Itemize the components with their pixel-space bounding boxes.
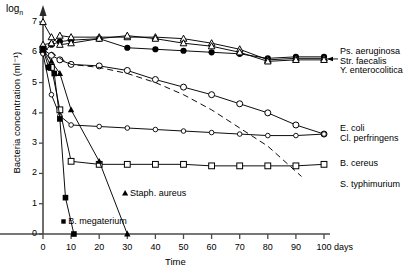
x-ticks xyxy=(43,234,324,239)
x-tick-label: 60 xyxy=(198,242,226,252)
marker-open-square xyxy=(68,158,74,164)
y-tick-label: 1 xyxy=(21,198,37,208)
marker-filled-triangle xyxy=(96,158,102,164)
marker-open-circle-small xyxy=(181,129,186,134)
marker-open-circle xyxy=(237,101,243,107)
x-tick-label: 20 xyxy=(85,242,113,252)
series-label: Str. faecalis xyxy=(340,56,387,66)
series-line xyxy=(43,49,127,234)
y-axis-arrow xyxy=(39,5,46,16)
marker-filled-circle xyxy=(180,48,186,54)
y-tick-label: 3 xyxy=(21,137,37,147)
marker-open-circle-small xyxy=(294,133,299,138)
marker-open-square xyxy=(124,161,130,167)
marker-open-circle-small xyxy=(49,92,54,97)
marker-filled-circle xyxy=(124,45,130,51)
leader-arrow xyxy=(327,57,338,62)
y-tick-label: 2 xyxy=(21,167,37,177)
leader-arrowhead xyxy=(327,57,333,62)
bacteria-survival-chart: logn Bacteria concentration (ml⁻¹) 01234… xyxy=(0,0,414,277)
y-tick-label: 4 xyxy=(21,107,37,117)
y-tick-label: 0 xyxy=(21,228,37,238)
x-tick-label: 80 xyxy=(254,242,282,252)
marker-open-square xyxy=(209,163,215,169)
series-label: E. coli xyxy=(340,123,365,133)
marker-open-circle xyxy=(293,122,299,128)
marker-open-circle-small xyxy=(125,126,130,131)
marker-open-circle xyxy=(209,92,215,98)
x-tick-label: 70 xyxy=(226,242,254,252)
x-tick-label: 40 xyxy=(141,242,169,252)
x-tick-label: 50 xyxy=(170,242,198,252)
marker-open-square xyxy=(57,107,63,113)
y-tick-label: 5 xyxy=(21,77,37,87)
marker-open-circle-small xyxy=(97,124,102,129)
marker-open-circle-small xyxy=(209,130,214,135)
inline-series-label: Staph. aureus xyxy=(130,188,186,198)
series-e-coli xyxy=(40,46,327,137)
x-tick-label: 10 xyxy=(57,242,85,252)
marker-open-circle-small xyxy=(69,123,74,128)
marker-filled-triangle xyxy=(68,106,74,112)
inline-series-label: B. megaterium xyxy=(68,216,127,226)
marker-open-circle xyxy=(124,67,130,73)
marker-filled-square xyxy=(61,219,65,223)
marker-filled-square xyxy=(71,231,77,237)
marker-open-circle-small xyxy=(266,133,271,138)
y-tick-label: 7 xyxy=(21,16,37,26)
x-axis-unit: days xyxy=(334,242,353,252)
marker-open-square xyxy=(321,161,327,167)
marker-open-square xyxy=(153,161,159,167)
y-tick-label: 6 xyxy=(21,46,37,56)
marker-filled-circle xyxy=(152,46,158,52)
marker-open-triangle xyxy=(124,32,131,38)
marker-open-circle-small xyxy=(322,132,327,137)
x-tick-label: 0 xyxy=(29,242,57,252)
x-tick-label: 30 xyxy=(113,242,141,252)
marker-open-square xyxy=(293,163,299,169)
marker-open-triangle xyxy=(48,34,55,40)
x-tick-label: 90 xyxy=(282,242,310,252)
series-line xyxy=(43,49,324,134)
x-axis-title: Time xyxy=(165,256,186,267)
marker-filled-square xyxy=(57,116,63,122)
series-label: B. cereus xyxy=(340,158,378,168)
marker-filled-square xyxy=(51,71,57,77)
marker-open-square xyxy=(181,161,187,167)
marker-open-square xyxy=(265,163,271,169)
marker-open-circle xyxy=(181,84,187,90)
series-label: S. typhimurium xyxy=(340,179,400,189)
marker-filled-circle xyxy=(209,49,215,55)
marker-filled-triangle xyxy=(122,190,128,196)
series-line xyxy=(43,49,324,166)
series-label: Y. enterocolitica xyxy=(340,65,403,75)
marker-open-square xyxy=(237,163,243,169)
marker-open-circle-small xyxy=(153,127,158,132)
marker-filled-square xyxy=(46,65,52,71)
marker-open-triangle xyxy=(57,32,64,38)
marker-open-circle xyxy=(152,77,158,83)
series-label: Cl. perfringens xyxy=(340,133,399,143)
marker-filled-square xyxy=(63,195,69,201)
marker-open-circle-small xyxy=(237,132,242,137)
marker-filled-square xyxy=(40,46,46,52)
marker-open-circle xyxy=(265,110,271,116)
series-label: Ps. aeruginosa xyxy=(340,46,400,56)
